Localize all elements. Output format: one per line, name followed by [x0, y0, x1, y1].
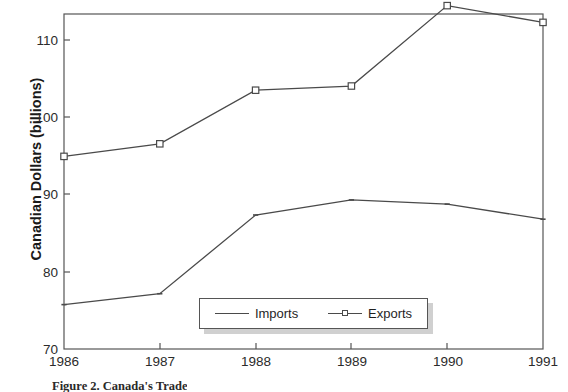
figure-container: Canadian Dollars (billions) 110 100 90 8…: [0, 0, 568, 392]
series-markers-exports: [61, 2, 546, 159]
chart-legend: Imports Exports: [199, 298, 428, 329]
legend-label: Exports: [368, 306, 412, 321]
series-markers-imports: [61, 200, 545, 305]
legend-label: Imports: [255, 306, 298, 321]
data-point: [444, 2, 450, 8]
data-point: [61, 153, 67, 159]
data-point: [540, 19, 546, 25]
figure-caption: Figure 2. Canada's Trade: [52, 379, 187, 392]
data-point: [252, 87, 258, 93]
data-point: [348, 83, 354, 89]
legend-item-exports: Exports: [328, 306, 412, 321]
legend-item-imports: Imports: [215, 306, 298, 321]
plot-area: [0, 0, 568, 392]
legend-line-square-marker-icon: [328, 308, 362, 320]
series-line-exports: [64, 6, 543, 157]
series-line-imports: [64, 200, 543, 305]
legend-line-icon: [215, 308, 249, 320]
data-point: [157, 141, 163, 147]
x-tick-marks: [160, 343, 447, 349]
